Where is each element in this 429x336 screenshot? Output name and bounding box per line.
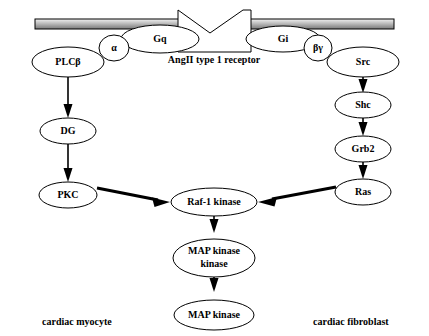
node-src[interactable]: Src	[327, 47, 399, 77]
node-ras-label: Ras	[355, 186, 371, 197]
node-map-kinase-kinase-label-line2: kinase	[200, 258, 228, 269]
edge-dg-to-pkc	[64, 144, 73, 182]
edge-pkc-to-raf1-shaft	[97, 188, 158, 200]
node-grb2[interactable]: Grb2	[335, 136, 391, 162]
node-shc-label: Shc	[355, 99, 371, 110]
node-gi-label: Gi	[278, 33, 289, 44]
signaling-pathway-diagram: AngII type 1 receptor Gq α Gi βγ PLCβ DG…	[0, 0, 429, 336]
edge-plcb-to-dg	[64, 77, 73, 118]
node-dg-label: DG	[61, 125, 76, 136]
node-plcb-label: PLCβ	[55, 56, 80, 67]
node-pkc-label: PKC	[57, 189, 78, 200]
edge-raf1-to-mapkk-arrowhead	[210, 219, 219, 233]
edge-src-to-shc	[359, 77, 368, 93]
node-g-alpha[interactable]: α	[99, 35, 129, 61]
edge-shc-to-grb2-arrowhead	[359, 122, 368, 136]
node-ras[interactable]: Ras	[335, 179, 391, 205]
node-raf1-kinase-label: Raf-1 kinase	[187, 196, 241, 207]
node-src-label: Src	[356, 56, 371, 67]
node-beta-gamma[interactable]: βγ	[304, 35, 332, 61]
node-map-kinase-kinase[interactable]: MAP kinase kinase	[173, 239, 255, 277]
edge-pkc-to-raf1	[97, 188, 170, 207]
node-shc[interactable]: Shc	[335, 92, 391, 118]
node-map-kinase[interactable]: MAP kinase	[174, 300, 254, 330]
node-beta-gamma-label: βγ	[313, 42, 323, 53]
edge-plcb-to-dg-arrowhead	[64, 104, 73, 118]
plasma-membrane	[35, 19, 394, 29]
edge-ras-to-raf1	[258, 187, 336, 207]
node-map-kinase-kinase-label-line1: MAP kinase	[188, 245, 241, 256]
cell-label-cardiac-fibroblast: cardiac fibroblast	[313, 316, 389, 327]
edge-dg-to-pkc-arrowhead	[64, 168, 73, 182]
edge-shc-to-grb2	[359, 118, 368, 136]
cell-label-cardiac-myocyte: cardiac myocyte	[42, 316, 112, 327]
node-pkc[interactable]: PKC	[39, 182, 97, 208]
edge-grb2-to-ras	[359, 162, 368, 179]
edge-raf1-to-mapkk	[210, 216, 219, 233]
edge-grb2-to-ras-arrowhead	[359, 165, 368, 179]
edge-ras-to-raf1-arrowhead	[258, 197, 277, 207]
edge-pkc-to-raf1-arrowhead	[152, 198, 170, 208]
node-gq[interactable]: Gq	[121, 25, 199, 53]
node-gq-label: Gq	[153, 33, 167, 44]
node-map-kinase-label: MAP kinase	[188, 309, 241, 320]
edge-mapkk-to-mapk-arrowhead	[210, 278, 219, 292]
node-grb2-label: Grb2	[352, 143, 375, 154]
node-g-alpha-label: α	[111, 42, 117, 53]
node-plcb[interactable]: PLCβ	[32, 47, 104, 77]
receptor-label: AngII type 1 receptor	[168, 54, 261, 65]
edge-ras-to-raf1-shaft	[272, 187, 336, 199]
edge-src-to-shc-arrowhead	[359, 79, 368, 93]
node-raf1-kinase[interactable]: Raf-1 kinase	[171, 188, 257, 216]
node-dg[interactable]: DG	[40, 118, 96, 144]
edge-mapkk-to-mapk	[210, 277, 219, 292]
